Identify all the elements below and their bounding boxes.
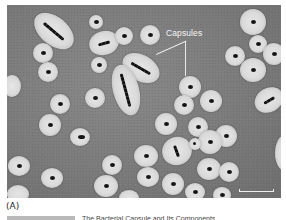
capsule	[174, 95, 194, 115]
capsule	[38, 62, 58, 82]
capsule	[263, 43, 281, 65]
capsule	[85, 88, 105, 108]
capsule	[197, 158, 221, 180]
capsule	[89, 15, 103, 29]
capsule	[240, 58, 266, 82]
capsule	[134, 145, 158, 167]
capsules-label: Capsules	[166, 28, 202, 38]
capsule	[189, 138, 201, 150]
micrograph-image: Capsules	[7, 5, 281, 198]
capsule	[200, 90, 222, 112]
capsule	[50, 94, 70, 114]
capsule	[140, 25, 160, 45]
capsule	[70, 128, 90, 146]
capsule	[185, 183, 205, 198]
capsule	[162, 173, 184, 195]
capsule	[219, 162, 239, 182]
capsule	[240, 9, 266, 35]
capsule	[213, 187, 231, 198]
capsule	[155, 113, 177, 135]
capsule	[115, 27, 133, 45]
capsule	[102, 155, 122, 175]
scale-bar	[239, 189, 274, 192]
caption-fragment: The Bacterial Capsule and Its Components	[82, 214, 215, 220]
capsule	[8, 156, 30, 176]
capsule	[91, 57, 107, 73]
capsule	[94, 175, 118, 197]
capsule	[7, 185, 29, 198]
capsule	[39, 114, 61, 136]
panel-label: (A)	[6, 201, 19, 211]
capsule	[41, 168, 63, 188]
capsule	[33, 43, 53, 63]
capsule	[198, 130, 222, 154]
capsule	[137, 167, 159, 187]
caption-bar	[7, 216, 75, 220]
leader-line-down	[185, 41, 186, 76]
